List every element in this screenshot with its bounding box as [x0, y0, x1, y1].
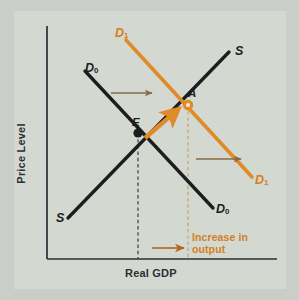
curve-label-d1-bottom: D1 — [255, 174, 268, 187]
x-axis-title: Real GDP — [125, 268, 177, 279]
y-axis-title: Price Level — [16, 114, 27, 194]
curve-label-s-top: S — [235, 45, 243, 58]
economics-diagram-figure: D1 D0 S S D0 D1 E A Price Level Real GDP… — [0, 0, 299, 300]
point-A-marker-center — [186, 103, 190, 107]
equilibrium-move-arrow — [145, 113, 174, 138]
curve-label-d1-top: D1 — [115, 27, 128, 40]
increase-in-output-annotation: Increase in output — [192, 232, 248, 255]
plot-canvas — [0, 0, 299, 300]
axis-lines — [47, 26, 277, 259]
point-label-E: E — [132, 117, 140, 129]
curve-label-d0-bottom: D0 — [216, 203, 229, 216]
point-E-marker — [133, 128, 142, 137]
curve-label-d0-top: D0 — [85, 62, 98, 75]
dashed-guides — [138, 105, 188, 259]
curve-label-s-bottom: S — [56, 212, 64, 225]
point-label-A: A — [188, 88, 196, 100]
